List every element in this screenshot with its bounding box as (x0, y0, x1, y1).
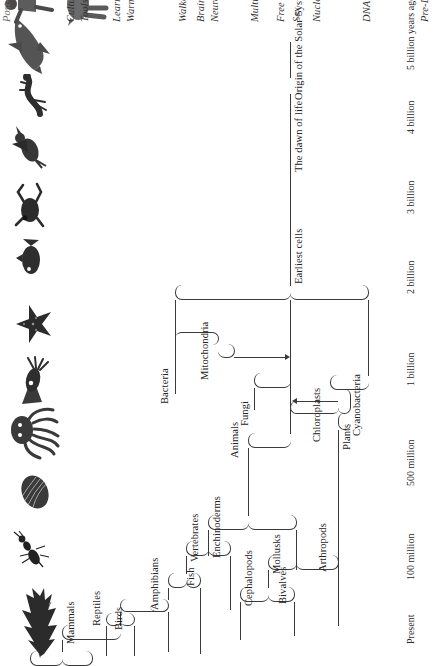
mollusks-trunk (268, 570, 269, 588)
label-cyanobacteria: Cyanobacteria (352, 374, 363, 436)
bivalves-branch-line (294, 602, 295, 636)
milestone-post-dna: Post-DNA reproduction (2, 0, 13, 22)
elbow-mitochondria-top (218, 344, 235, 358)
label-bivalves: Bivalves (278, 566, 289, 604)
elbow-tetrapods (168, 573, 187, 588)
elbow-chloroplast-bottom (338, 389, 351, 414)
milestone-dna: DNA (362, 1, 373, 22)
elbow-mammals-down (62, 651, 93, 666)
elbow-amniotes (120, 599, 169, 612)
elbow-cells-down (290, 285, 369, 300)
label-fungi: Fungi (240, 401, 251, 426)
tetrapod-trunk (168, 588, 169, 600)
axis-tick-2b: 2 billion (406, 260, 416, 294)
elbow-fungi (254, 373, 291, 388)
milestone-learning: Learning (112, 0, 123, 22)
axis-tick-4b: 4 billion (406, 100, 416, 134)
label-reptiles: Reptiles (92, 591, 103, 626)
axis-tick-500m: 500 million (406, 440, 416, 486)
elbow-cyano (330, 375, 369, 390)
label-mitochondria: Mitochondria (200, 322, 211, 380)
elbow-protostome (248, 515, 297, 530)
mammals-stem-line (62, 640, 63, 652)
label-vertebrates: Vertebrates (190, 514, 201, 562)
trunk-earliest-cells (290, 154, 291, 286)
starfish-illustration (14, 304, 54, 344)
milestone-walkers: Walkers (178, 0, 189, 22)
label-fish: Fish (186, 568, 197, 587)
axis-tick-100m: 100 million (406, 534, 416, 580)
echinoderms-branch-line (230, 556, 231, 610)
arthropods-branch-line (338, 570, 339, 626)
lizard-illustration (10, 74, 52, 120)
label-bacteria: Bacteria (160, 368, 171, 404)
octopus-illustration (6, 404, 60, 460)
label-echinoderms: Enchinoderms (212, 496, 223, 558)
axis-tick-1b: 1 billion (406, 352, 416, 386)
elbow-mammals-up (30, 651, 63, 666)
milestone-sex: Sex (292, 7, 303, 22)
conifer-illustration (18, 586, 64, 660)
label-cephalopods: Cephalopods (244, 550, 255, 606)
elbow-mitochondria-right (175, 332, 219, 345)
evolutionary-tree-figure: Present 100 million 500 million 1 billio… (0, 0, 438, 666)
label-chloroplasts: Chloroplasts (312, 388, 323, 442)
bird-illustration (8, 126, 50, 170)
milestone-free-oxygen: Free oxygen (276, 0, 287, 22)
label-earliest-cells: Earliest cells (294, 229, 305, 284)
cephalopods-branch-line (240, 602, 241, 640)
axis-tick-5b: 5 billion years ago (406, 0, 416, 70)
elbow-animals (248, 433, 291, 448)
insect-illustration (12, 530, 52, 570)
milestone-tools: Tools (80, 0, 91, 22)
label-arthropods: Arthropods (318, 523, 329, 572)
mitochondria-arrowhead (285, 355, 290, 361)
milestone-nucleated-cells: Nucleated cells (312, 0, 323, 22)
label-animals: Animals (230, 422, 241, 458)
chloroplast-arrowhead (292, 399, 297, 405)
milestone-culture: Culture (66, 0, 77, 22)
label-mammals: Mammals (66, 601, 77, 644)
fish-branch-line (200, 588, 201, 654)
fish-illustration (14, 238, 48, 278)
eukaryote-trunk (290, 300, 291, 434)
milestone-neurons: Neurons (210, 0, 221, 22)
fungi-branch-line (254, 388, 255, 410)
elbow-cells-up (175, 285, 291, 300)
frog-illustration (10, 182, 50, 230)
axis-tick-present: Present (406, 615, 416, 644)
amphibians-branch-line (168, 612, 169, 652)
label-plants: Plants (342, 424, 353, 450)
trunk-dawn-segment (290, 94, 291, 154)
trunk-origin-segment (290, 42, 291, 78)
label-dawn-of-life: The dawn of life (294, 101, 305, 172)
animals-trunk (248, 448, 249, 516)
axis-tick-3b: 3 billion (406, 180, 416, 214)
birds-branch-line (134, 626, 135, 656)
mitochondria-arrow-line (234, 357, 286, 358)
squid-illustration (12, 356, 54, 408)
milestone-brains: Brains (196, 0, 207, 22)
bacteria-branch-line (175, 300, 176, 394)
cyanobacteria-branch-line (368, 300, 369, 376)
milestone-pre-dna: Pre-DNA reproduction (420, 0, 431, 22)
milestone-multicelled: Multicelled animals (250, 0, 261, 22)
milestone-warm-blood: Warm blood (126, 0, 137, 22)
clam-shell-illustration (16, 470, 54, 514)
